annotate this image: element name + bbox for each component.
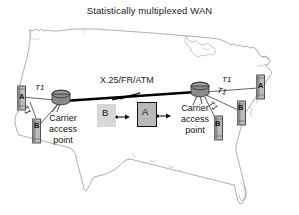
terminal-right-c[interactable]: B — [213, 115, 224, 141]
t1-label-right-middle: T1 — [216, 87, 227, 97]
terminal-left-a[interactable]: A — [16, 85, 27, 111]
packet-b-label: B — [102, 108, 108, 118]
carrier-right-line-2: access — [172, 114, 218, 125]
terminal-left-b-label: B — [34, 122, 39, 130]
terminal-right-b-label: B — [238, 104, 243, 112]
packet-a-label: A — [142, 107, 148, 117]
terminal-left-a-label: A — [19, 93, 24, 101]
carrier-left-line-3: point — [40, 135, 86, 146]
wan-link-label: X.25/FR/ATM — [100, 76, 154, 85]
t1-line-right-a — [205, 88, 258, 92]
carrier-access-point-left-label: Carrier access point — [40, 113, 86, 146]
carrier-right-line-3: point — [172, 125, 218, 136]
terminal-right-a[interactable]: A — [255, 74, 266, 100]
carrier-left-line-2: access — [40, 124, 86, 135]
terminal-right-a-label: A — [258, 82, 263, 90]
carrier-left-line-1: Carrier — [40, 113, 86, 124]
terminal-left-b[interactable]: B — [31, 118, 42, 144]
carrier-access-point-left[interactable] — [50, 88, 72, 108]
figure-canvas: Statistically multiplexed WAN X.25/FR/AT… — [0, 0, 299, 215]
figure-title: Statistically multiplexed WAN — [0, 6, 299, 16]
terminal-right-c-label: B — [215, 120, 220, 128]
packet-b-arrow-icon — [115, 113, 131, 121]
t1-label-right-upper: T1 — [222, 76, 231, 84]
packet-a-arrow-icon — [156, 112, 172, 120]
t1-label-left-upper: T1 — [35, 84, 44, 92]
carrier-access-point-right[interactable] — [189, 80, 211, 100]
terminal-right-b[interactable]: B — [236, 100, 247, 126]
